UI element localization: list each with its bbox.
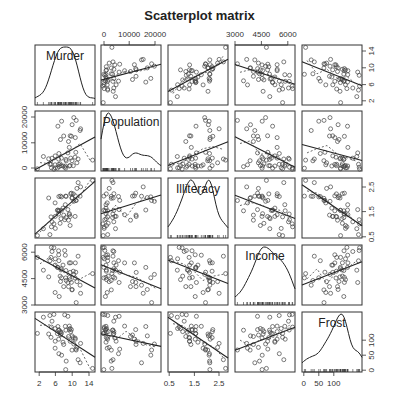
diagonal-label: Frost bbox=[318, 316, 346, 330]
scatter-panel-frost-vs-income bbox=[235, 312, 295, 372]
right-axis-murder: 261014 bbox=[362, 46, 376, 103]
scatter-panel-population-vs-income bbox=[235, 111, 295, 171]
right-axis-illiteracy: 0.51.52.5 bbox=[362, 181, 376, 242]
scatter-panel-murder-vs-population bbox=[101, 45, 161, 105]
svg-text:6000: 6000 bbox=[20, 243, 29, 261]
left-axis-population: 01000020000 bbox=[20, 105, 35, 170]
svg-text:100: 100 bbox=[367, 333, 376, 347]
svg-text:2.5: 2.5 bbox=[213, 379, 225, 388]
scatter-panel-murder-vs-illiteracy bbox=[168, 45, 228, 105]
svg-text:0: 0 bbox=[102, 30, 107, 39]
bottom-axis-frost: 050100 bbox=[302, 372, 341, 388]
scatter-panel-frost-vs-illiteracy bbox=[168, 312, 228, 372]
diagonal-label: Murder bbox=[46, 49, 84, 63]
svg-text:50: 50 bbox=[367, 350, 376, 359]
svg-text:50: 50 bbox=[314, 379, 323, 388]
scatter-panel-illiteracy-vs-frost bbox=[302, 178, 362, 238]
scatter-panel-population-vs-frost bbox=[302, 111, 362, 171]
svg-text:0: 0 bbox=[367, 367, 376, 372]
scatter-panel-illiteracy-vs-income bbox=[235, 178, 295, 238]
svg-text:4500: 4500 bbox=[253, 30, 271, 39]
scatter-panel-population-vs-murder bbox=[35, 111, 95, 171]
scatter-panel-income-vs-frost bbox=[302, 245, 362, 305]
density-panel-frost: Frost bbox=[302, 312, 362, 372]
scatter-panel-illiteracy-vs-murder bbox=[35, 178, 95, 238]
scatter-panel-frost-vs-population bbox=[101, 312, 161, 372]
svg-text:2: 2 bbox=[37, 379, 42, 388]
diagonal-label: Illiteracy bbox=[176, 182, 220, 196]
svg-text:6: 6 bbox=[367, 82, 376, 87]
svg-text:1.5: 1.5 bbox=[189, 379, 201, 388]
density-panel-illiteracy: Illiteracy bbox=[168, 178, 228, 238]
scatter-panel-income-vs-population bbox=[101, 245, 161, 305]
left-axis-income: 300045006000 bbox=[20, 243, 35, 314]
scatter-panel-frost-vs-murder bbox=[35, 312, 95, 372]
svg-text:10: 10 bbox=[367, 63, 376, 72]
bottom-axis-murder: 261014 bbox=[37, 372, 94, 388]
svg-text:0: 0 bbox=[302, 379, 307, 388]
density-panel-income: Income bbox=[235, 245, 295, 305]
svg-text:6000: 6000 bbox=[279, 30, 297, 39]
svg-text:4500: 4500 bbox=[20, 269, 29, 287]
diagonal-label: Income bbox=[245, 249, 285, 263]
svg-text:2.5: 2.5 bbox=[367, 181, 376, 193]
scatter-panel-income-vs-murder bbox=[35, 245, 95, 305]
svg-text:1.5: 1.5 bbox=[367, 205, 376, 217]
svg-text:0: 0 bbox=[20, 165, 29, 170]
density-panel-population: Population bbox=[101, 111, 161, 171]
svg-text:0.5: 0.5 bbox=[367, 231, 376, 243]
scatter-panel-population-vs-illiteracy bbox=[168, 111, 228, 171]
svg-text:3000: 3000 bbox=[226, 30, 244, 39]
scatter-panel-murder-vs-frost bbox=[302, 45, 362, 105]
svg-text:0.5: 0.5 bbox=[164, 379, 176, 388]
scatterplot-matrix: MurderPopulationIlliteracyIncomeFrost010… bbox=[0, 0, 399, 398]
right-axis-frost: 050100 bbox=[362, 333, 376, 372]
scatter-panel-murder-vs-income bbox=[235, 45, 295, 105]
scatter-panel-illiteracy-vs-population bbox=[101, 178, 161, 238]
svg-text:14: 14 bbox=[367, 46, 376, 55]
svg-text:2: 2 bbox=[367, 98, 376, 103]
diagonal-label: Population bbox=[103, 115, 160, 129]
bottom-axis-illiteracy: 0.51.52.5 bbox=[164, 372, 225, 388]
scatter-panel-income-vs-illiteracy bbox=[168, 245, 228, 305]
svg-text:10000: 10000 bbox=[118, 30, 141, 39]
svg-text:10: 10 bbox=[68, 379, 77, 388]
svg-text:3000: 3000 bbox=[20, 296, 29, 314]
top-axis-population: 01000020000 bbox=[102, 30, 167, 45]
svg-text:20000: 20000 bbox=[20, 105, 29, 128]
density-panel-murder: Murder bbox=[35, 45, 95, 105]
svg-text:100: 100 bbox=[327, 379, 341, 388]
svg-text:20000: 20000 bbox=[144, 30, 167, 39]
svg-text:6: 6 bbox=[53, 379, 58, 388]
svg-text:10000: 10000 bbox=[20, 131, 29, 154]
top-axis-income: 300045006000 bbox=[226, 30, 297, 45]
svg-text:14: 14 bbox=[85, 379, 94, 388]
